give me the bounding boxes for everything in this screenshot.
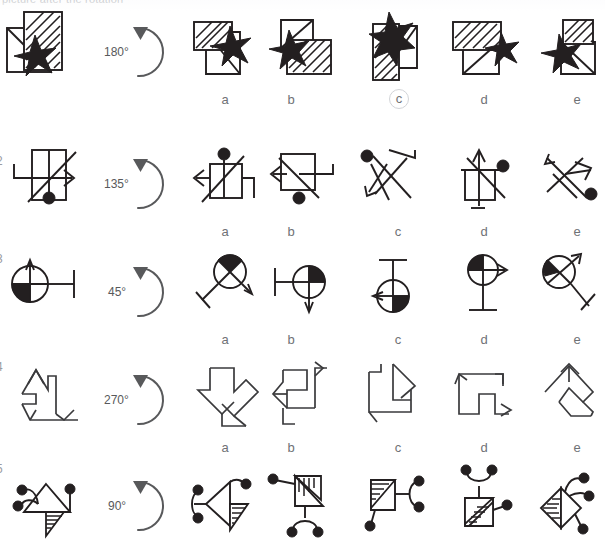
stimulus-figure-5 xyxy=(2,462,98,542)
stimulus-figure-3 xyxy=(2,248,98,330)
option-figure-2e[interactable] xyxy=(535,140,605,222)
stimulus-figure-2 xyxy=(2,140,98,222)
option-label-1e[interactable]: e xyxy=(565,92,589,107)
option-figure-2a[interactable] xyxy=(188,140,266,222)
option-label-3c[interactable]: c xyxy=(386,332,410,347)
question-row-2: 2 135° xyxy=(0,140,605,240)
option-label-3a[interactable]: a xyxy=(213,332,237,347)
rotation-label-5: 90° xyxy=(108,499,126,513)
option-label-3b[interactable]: b xyxy=(279,332,303,347)
rotation-label-3: 45° xyxy=(108,285,126,299)
rotation-label-4: 270° xyxy=(104,393,129,407)
option-label-4e[interactable]: e xyxy=(565,440,589,455)
stimulus-figure-4 xyxy=(2,356,98,438)
option-figure-3c[interactable] xyxy=(355,248,433,330)
rotation-symbol-3: 45° xyxy=(92,254,188,330)
option-label-3d[interactable]: d xyxy=(472,332,496,347)
option-label-1a[interactable]: a xyxy=(213,92,237,107)
question-row-1: 180° xyxy=(0,8,605,108)
option-figure-5d[interactable] xyxy=(447,462,525,542)
option-label-4b[interactable]: b xyxy=(279,440,303,455)
option-figure-1a[interactable] xyxy=(188,8,266,90)
option-figure-5a[interactable] xyxy=(188,462,266,542)
option-figure-3e[interactable] xyxy=(535,248,605,330)
option-label-1c-selected[interactable]: c xyxy=(389,89,409,109)
option-figure-1c[interactable] xyxy=(355,8,433,90)
option-figure-1b[interactable] xyxy=(265,8,343,90)
option-figure-4c[interactable] xyxy=(355,356,433,438)
option-label-2b[interactable]: b xyxy=(279,224,303,239)
rotation-symbol-1: 180° xyxy=(92,14,188,90)
option-figure-3b[interactable] xyxy=(265,248,343,330)
test-page: picture after the rotation xyxy=(0,0,605,542)
rotation-symbol-4: 270° xyxy=(92,362,188,438)
rotation-symbol-5: 90° xyxy=(92,468,188,542)
option-figure-4a[interactable] xyxy=(188,356,266,438)
option-figure-1e[interactable] xyxy=(535,8,605,90)
option-label-2e[interactable]: e xyxy=(565,224,589,239)
option-label-2a[interactable]: a xyxy=(213,224,237,239)
option-figure-2b[interactable] xyxy=(265,140,343,222)
option-figure-3d[interactable] xyxy=(447,248,525,330)
question-row-4: 4 270° xyxy=(0,356,605,456)
option-label-2d[interactable]: d xyxy=(472,224,496,239)
option-figure-5c[interactable] xyxy=(355,462,433,542)
option-figure-2d[interactable] xyxy=(447,140,525,222)
option-label-2c[interactable]: c xyxy=(386,224,410,239)
rotation-label-2: 135° xyxy=(104,177,129,191)
option-figure-3a[interactable] xyxy=(188,248,266,330)
question-row-3: 3 45° xyxy=(0,248,605,348)
option-figure-4e[interactable] xyxy=(535,356,605,438)
option-label-4c[interactable]: c xyxy=(386,440,410,455)
option-label-3e[interactable]: e xyxy=(565,332,589,347)
option-figure-4d[interactable] xyxy=(447,356,525,438)
question-row-5: 5 90° xyxy=(0,462,605,542)
stimulus-figure-1 xyxy=(2,8,98,90)
option-figure-5e[interactable] xyxy=(535,462,605,542)
option-label-4a[interactable]: a xyxy=(213,440,237,455)
option-label-1d[interactable]: d xyxy=(472,92,496,107)
option-figure-5b[interactable] xyxy=(265,462,343,542)
option-figure-2c[interactable] xyxy=(355,140,433,222)
option-label-1b[interactable]: b xyxy=(279,92,303,107)
rotation-label-1: 180° xyxy=(104,45,129,59)
rotation-symbol-2: 135° xyxy=(92,146,188,222)
option-figure-4b[interactable] xyxy=(265,356,343,438)
option-label-4d[interactable]: d xyxy=(472,440,496,455)
option-figure-1d[interactable] xyxy=(447,8,525,90)
